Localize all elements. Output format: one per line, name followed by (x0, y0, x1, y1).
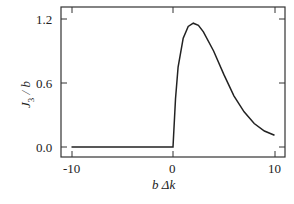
y-ticks (61, 19, 285, 147)
xtick-label: -10 (63, 162, 80, 175)
ytick-label: 0.6 (36, 77, 52, 90)
y-axis-label: J3 / b (18, 81, 36, 108)
ytick-label: 0.0 (36, 141, 52, 154)
xtick-label: 0 (169, 162, 176, 175)
ytick-label: 1.2 (36, 13, 52, 26)
data-curve (72, 23, 275, 147)
xtick-label: 10 (268, 162, 281, 175)
plot-area (0, 0, 294, 204)
x-axis-label: b Δk (152, 177, 175, 193)
